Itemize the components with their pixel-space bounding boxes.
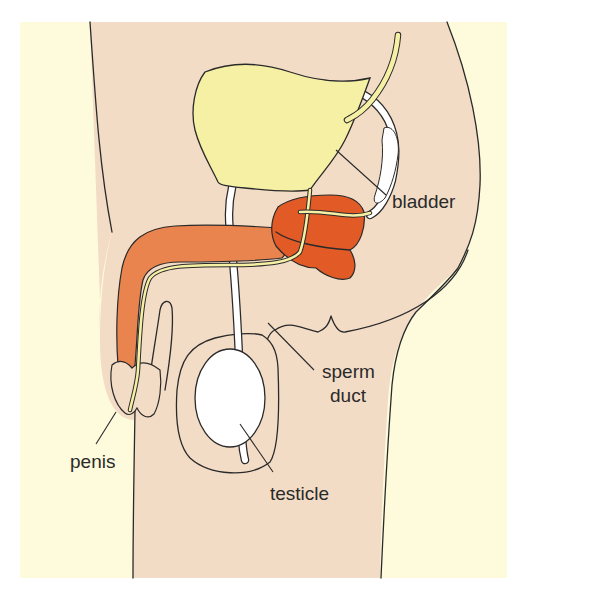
label-sperm-duct-line1: sperm [322, 361, 375, 382]
label-testicle: testicle [270, 483, 329, 504]
reproductive-system-diagram: bladder sperm duct penis testicle [0, 0, 609, 600]
label-sperm-duct-line2: duct [330, 385, 367, 406]
label-bladder: bladder [392, 191, 456, 212]
testicle [195, 349, 265, 447]
label-penis: penis [70, 451, 115, 472]
